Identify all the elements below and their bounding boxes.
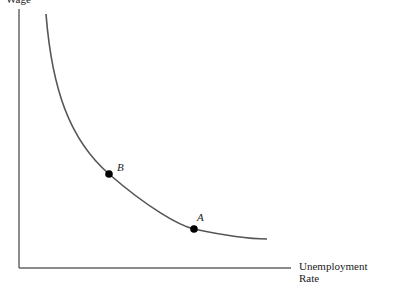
x-axis-label: Unemployment Rate bbox=[299, 260, 367, 284]
point-b-label: B bbox=[117, 161, 124, 173]
point-a-marker bbox=[190, 225, 198, 233]
phillips-curve bbox=[46, 14, 267, 239]
point-b-marker bbox=[105, 170, 113, 178]
chart-canvas bbox=[0, 0, 396, 291]
x-axis-label-line1: Unemployment bbox=[299, 260, 367, 272]
point-a-label: A bbox=[197, 211, 204, 223]
y-axis-label: Wage bbox=[6, 0, 31, 5]
x-axis-label-line2: Rate bbox=[299, 272, 367, 284]
